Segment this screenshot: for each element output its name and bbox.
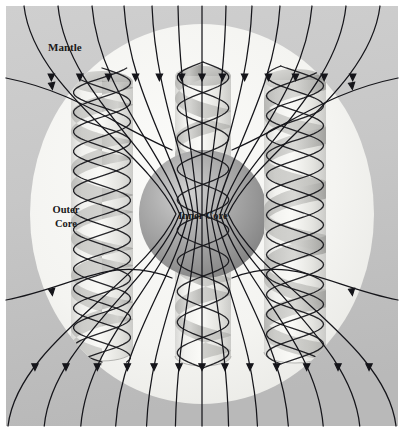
geodynamo-figure: MantleOuterCoreInner Core — [0, 0, 404, 432]
label-mantle: Mantle — [48, 41, 82, 53]
diagram-canvas: MantleOuterCoreInner Core — [0, 0, 404, 432]
label-inner-core: Inner Core — [178, 210, 228, 221]
